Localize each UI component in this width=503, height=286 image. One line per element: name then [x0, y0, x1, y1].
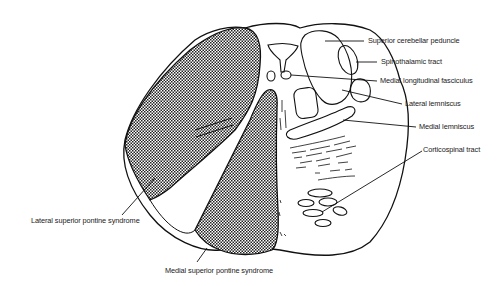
label-medial-superior-pontine-syndrome: Medial superior pontine syndrome — [165, 266, 273, 275]
label-lateral-lemniscus: Lateral lemniscus — [405, 99, 461, 108]
label-medial-longitudinal-fasciculus: Medial longitudinal fasciculus — [380, 76, 473, 85]
label-spinothalamic-tract: Spinothalamic tract — [381, 57, 442, 66]
pontine-fibres — [290, 136, 356, 180]
label-superior-cerebellar-peduncle: Superior cerebellar peduncle — [368, 36, 460, 45]
aqueduct — [268, 44, 298, 72]
label-corticospinal-tract: Corticospinal tract — [423, 145, 480, 154]
superior-cerebellar-peduncle-shape — [301, 31, 352, 105]
label-lateral-superior-pontine-syndrome: Lateral superior pontine syndrome — [31, 216, 140, 225]
corticospinal-bundles — [298, 189, 348, 227]
label-medial-lemniscus: Medial lemniscus — [419, 122, 474, 131]
